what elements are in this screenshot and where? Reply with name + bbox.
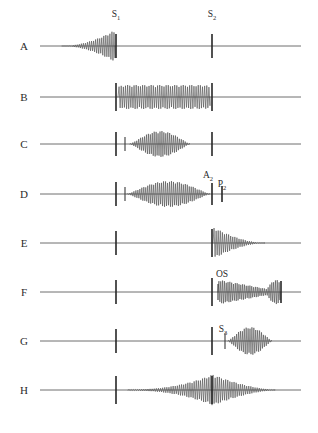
event-label-os: OS <box>216 269 228 279</box>
trace-h: H <box>20 375 301 405</box>
trace-d: DA2P2 <box>20 170 301 207</box>
trace-label-b: B <box>20 91 27 103</box>
trace-label-a: A <box>20 40 28 52</box>
trace-label-d: D <box>20 188 28 200</box>
phonocardiogram-canvas: S1S2 ABCDA2P2EFOSGS3H <box>0 0 318 433</box>
top-label-s1: S1 <box>112 9 121 21</box>
trace-label-h: H <box>20 384 28 396</box>
top-label-s2: S2 <box>208 9 217 21</box>
trace-b: B <box>20 83 301 111</box>
event-label-s3: S3 <box>219 324 228 336</box>
trace-label-e: E <box>21 237 28 249</box>
trace-label-g: G <box>20 335 28 347</box>
trace-a: A <box>20 32 301 61</box>
trace-e: E <box>21 228 301 257</box>
trace-label-c: C <box>20 138 27 150</box>
event-label-p2: P2 <box>218 179 227 191</box>
event-label-a2: A2 <box>203 170 213 182</box>
trace-c: C <box>20 131 301 157</box>
phonocardiogram-figure: S1S2 ABCDA2P2EFOSGS3H <box>0 0 318 433</box>
trace-group: ABCDA2P2EFOSGS3H <box>20 32 301 405</box>
trace-f: FOS <box>21 269 301 306</box>
trace-g: GS3 <box>20 324 301 355</box>
murmur-waveform-e <box>213 228 265 257</box>
top-event-labels: S1S2 <box>112 9 217 21</box>
trace-label-f: F <box>21 286 27 298</box>
